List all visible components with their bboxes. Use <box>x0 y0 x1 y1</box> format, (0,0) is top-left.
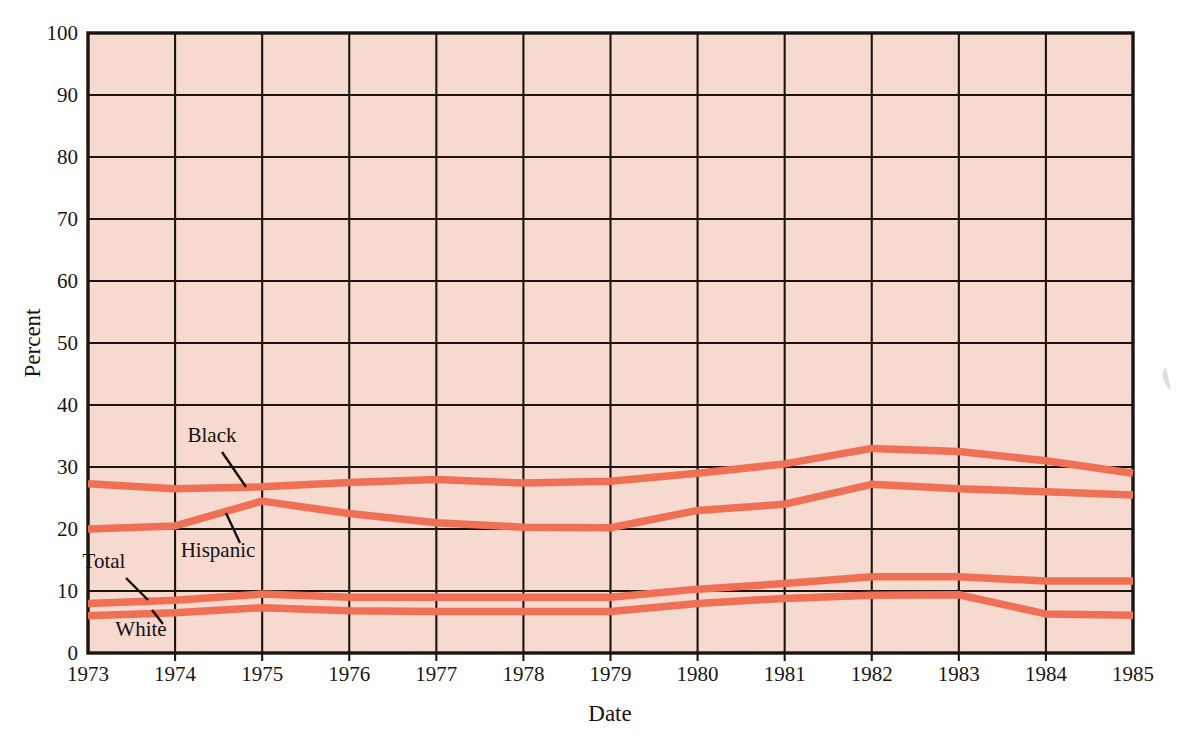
x-tick-label: 1982 <box>851 662 893 686</box>
series-label-black: Black <box>188 423 237 447</box>
x-axis-tick-labels: 1973197419751976197719781979198019811982… <box>67 662 1154 686</box>
y-tick-label: 70 <box>57 207 78 231</box>
y-axis-tick-labels: 0102030405060708090100 <box>47 21 79 665</box>
y-tick-label: 90 <box>57 83 78 107</box>
y-axis-title: Percent <box>20 308 45 378</box>
x-tick-label: 1974 <box>154 662 197 686</box>
x-tick-label: 1984 <box>1025 662 1068 686</box>
y-tick-label: 30 <box>57 455 78 479</box>
y-tick-label: 60 <box>57 269 78 293</box>
series-label-total: Total <box>83 549 126 573</box>
y-tick-label: 50 <box>57 331 78 355</box>
x-tick-label: 1976 <box>328 662 370 686</box>
x-tick-label: 1973 <box>67 662 109 686</box>
x-tick-label: 1975 <box>241 662 283 686</box>
x-tick-label: 1981 <box>764 662 806 686</box>
x-axis-title: Date <box>588 701 631 726</box>
figure-container: 0102030405060708090100 19731974197519761… <box>0 0 1183 743</box>
scan-artifact <box>1163 368 1171 389</box>
x-tick-label: 1980 <box>677 662 719 686</box>
x-tick-label: 1979 <box>590 662 632 686</box>
x-tick-label: 1983 <box>938 662 980 686</box>
y-tick-label: 100 <box>47 21 79 45</box>
x-tick-label: 1977 <box>415 662 457 686</box>
x-tick-label: 1985 <box>1112 662 1154 686</box>
y-tick-label: 10 <box>57 579 78 603</box>
y-tick-label: 80 <box>57 145 78 169</box>
series-label-hispanic: Hispanic <box>181 538 256 562</box>
line-chart: 0102030405060708090100 19731974197519761… <box>0 0 1183 743</box>
y-tick-label: 20 <box>57 517 78 541</box>
x-tick-label: 1978 <box>502 662 544 686</box>
y-tick-label: 40 <box>57 393 78 417</box>
